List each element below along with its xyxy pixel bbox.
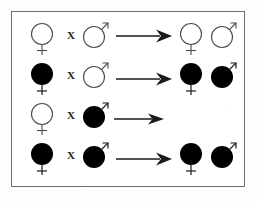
figure-root: X	[0, 0, 258, 202]
cross-row: X	[12, 20, 244, 60]
cross-operator: X	[67, 70, 75, 81]
parent-male-symbol	[80, 60, 114, 100]
arrow-right-icon	[116, 151, 174, 171]
arrow-right-icon	[116, 71, 174, 91]
offspring-female-symbol	[174, 60, 208, 100]
offspring-male-symbol	[208, 60, 242, 100]
parent-female-symbol	[25, 20, 59, 60]
offspring-female-symbol	[174, 20, 208, 60]
cross-row: X	[12, 60, 244, 100]
parent-male-symbol	[80, 20, 114, 60]
parent-female-symbol	[25, 100, 59, 140]
offspring-male-symbol	[208, 20, 242, 60]
parent-male-symbol	[80, 140, 114, 180]
cross-row: X	[12, 140, 244, 180]
parent-female-symbol	[25, 60, 59, 100]
parent-female-symbol	[25, 140, 59, 180]
cross-row: X	[12, 100, 244, 140]
arrow-right-icon	[116, 28, 174, 48]
offspring-female-symbol	[174, 140, 208, 180]
cross-operator: X	[67, 150, 75, 161]
figure-frame: X	[11, 11, 245, 187]
cross-operator: X	[67, 30, 75, 41]
parent-male-symbol	[80, 100, 114, 140]
offspring-male-symbol	[208, 140, 242, 180]
arrow-right-icon	[114, 111, 170, 131]
cross-operator: X	[67, 110, 75, 121]
